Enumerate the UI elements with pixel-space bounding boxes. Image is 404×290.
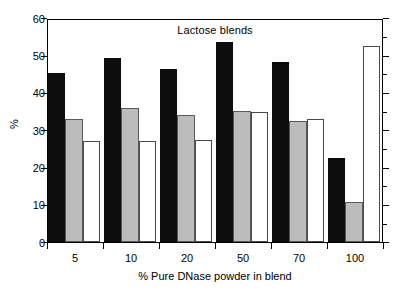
bar-black-5 [48,73,65,242]
x-tick-mark [215,243,216,249]
x-tick-label-50: 50 [221,252,265,264]
bar-black-10 [104,58,122,242]
y-tick-label: 20 [33,163,45,173]
x-tick-label-5: 5 [53,252,97,264]
right-minor-tick-mark [383,37,387,38]
y-tick-label: 10 [33,200,45,210]
right-tick-mark [383,56,389,57]
chart-title: Lactose blends [47,24,383,36]
x-tick-mark [383,243,384,249]
bar-white-50 [251,112,269,242]
y-tick-label: 30 [33,126,45,136]
right-minor-tick-mark [383,112,387,113]
chart-figure: Lactose blends % 0102030405060 510205070… [0,0,404,290]
bar-gray-50 [233,111,251,242]
bar-black-70 [272,62,290,242]
x-tick-mark [327,243,328,249]
y-tick-label: 50 [33,51,45,61]
right-tick-mark [383,205,389,206]
bar-white-70 [307,119,325,242]
bar-white-100 [363,46,381,242]
bar-gray-100 [345,202,363,242]
x-tick-mark [47,243,48,249]
plot-area [47,19,383,243]
right-tick-mark [383,130,389,131]
bar-gray-10 [121,108,139,242]
bars-layer [48,20,382,242]
bar-black-20 [160,69,178,242]
y-tick-label: 0 [39,238,45,248]
right-minor-tick-mark [383,149,387,150]
x-tick-mark [103,243,104,249]
bar-black-50 [216,42,234,242]
right-minor-tick-mark [383,224,387,225]
x-tick-label-100: 100 [333,252,377,264]
x-tick-mark [159,243,160,249]
x-axis-label: % Pure DNase powder in blend [47,270,383,282]
bar-gray-70 [289,121,307,242]
right-tick-mark [383,18,389,19]
y-tick-label: 60 [33,14,45,24]
right-tick-mark [383,93,389,94]
right-tick-mark [383,168,389,169]
bar-white-10 [139,141,157,242]
bar-gray-5 [65,119,83,242]
x-tick-label-10: 10 [109,252,153,264]
x-tick-label-20: 20 [165,252,209,264]
bar-white-5 [83,141,101,242]
right-minor-tick-mark [383,186,387,187]
x-tick-label-70: 70 [277,252,321,264]
y-tick-label: 40 [33,88,45,98]
bar-black-100 [328,158,346,242]
bar-white-20 [195,140,213,242]
bar-gray-20 [177,115,195,242]
x-tick-mark [271,243,272,249]
right-minor-tick-mark [383,74,387,75]
y-axis-label: % [8,109,20,139]
